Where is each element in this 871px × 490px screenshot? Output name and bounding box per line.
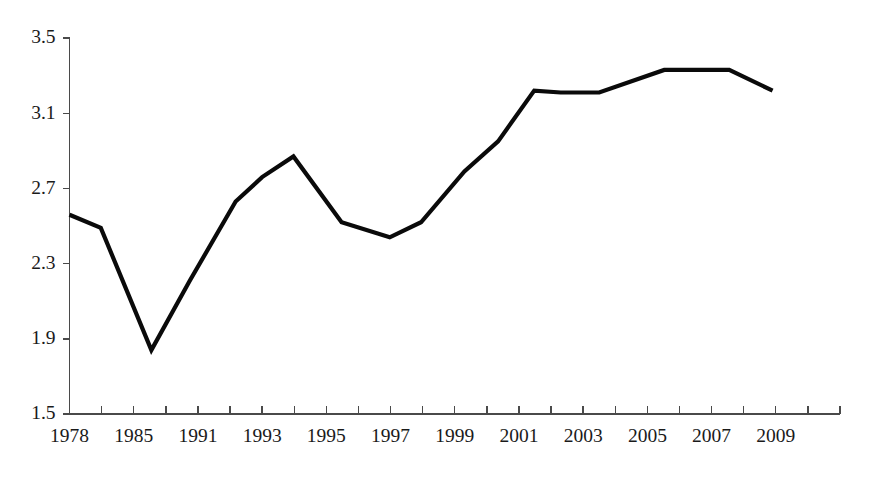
chart-container: 3.53.12.72.31.91.5 197819851991199319951… xyxy=(0,0,871,490)
x-axis-tick-label: 1997 xyxy=(371,425,410,446)
x-axis-tick-label: 2001 xyxy=(499,425,538,446)
y-axis-tick-label: 1.9 xyxy=(31,327,55,348)
x-axis-tick-label: 1999 xyxy=(435,425,474,446)
y-axis-tick-label: 3.1 xyxy=(31,102,55,123)
x-axis-tick-label: 1991 xyxy=(178,425,217,446)
x-axis-tick-label: 1978 xyxy=(50,425,89,446)
x-axis-tick-label: 1995 xyxy=(307,425,346,446)
x-axis-tick-label: 1993 xyxy=(243,425,282,446)
x-axis-tick-label: 2005 xyxy=(628,425,667,446)
y-axis-tick-label: 2.3 xyxy=(31,252,55,273)
line-chart: 3.53.12.72.31.91.5 197819851991199319951… xyxy=(0,0,871,490)
y-axis-tick-label: 1.5 xyxy=(31,402,55,423)
y-axis-tick-label: 2.7 xyxy=(31,177,56,198)
y-axis-tick-label: 3.5 xyxy=(31,26,55,47)
x-axis-tick-label: 2003 xyxy=(564,425,603,446)
x-axis-tick-label: 2009 xyxy=(756,425,795,446)
x-axis-tick-label: 1985 xyxy=(114,425,153,446)
x-axis-tick-label: 2007 xyxy=(692,425,731,446)
